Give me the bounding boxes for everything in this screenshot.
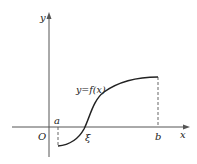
point-a-label: a <box>54 115 60 126</box>
x-axis <box>12 125 190 130</box>
y-axis <box>47 12 52 157</box>
point-b-label: b <box>155 131 161 142</box>
y-axis-label: y <box>39 12 46 23</box>
origin-label: O <box>38 131 46 142</box>
curve-label: y=f(x) <box>75 84 106 95</box>
point-xi-label: ξ <box>85 132 91 143</box>
x-axis-label: x <box>180 129 186 140</box>
function-curve <box>58 77 158 146</box>
function-graph-figure: y x O a ξ b y=f(x) <box>0 0 197 164</box>
